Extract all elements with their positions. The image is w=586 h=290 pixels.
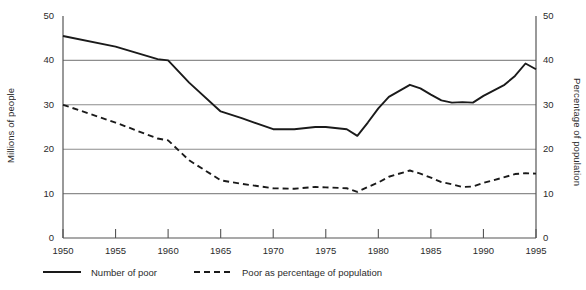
- solid-line-icon: [42, 267, 82, 277]
- right-y-tick-label: 40: [543, 54, 569, 65]
- x-tick-label: 1950: [46, 245, 80, 256]
- right-y-tick-label: 0: [543, 232, 569, 243]
- right-y-tick-label: 30: [543, 99, 569, 110]
- left-y-tick-label: 20: [28, 143, 54, 154]
- x-tick-label: 1990: [466, 245, 500, 256]
- poverty-line-chart: Millions of people Percentage of populat…: [0, 0, 586, 290]
- x-tick-label: 1955: [99, 245, 133, 256]
- left-y-tick-label: 50: [28, 10, 54, 21]
- left-axis-title: Millions of people: [2, 50, 18, 200]
- dashed-line-icon: [193, 267, 233, 277]
- x-axis-tick-marks: [63, 229, 536, 238]
- data-series-lines: [63, 36, 536, 192]
- left-y-tick-label: 10: [28, 188, 54, 199]
- x-tick-label: 1980: [361, 245, 395, 256]
- x-tick-label: 1970: [256, 245, 290, 256]
- legend-item-2[interactable]: Poor as percentage of population: [193, 267, 382, 278]
- x-tick-label: 1975: [309, 245, 343, 256]
- right-y-tick-label: 50: [543, 10, 569, 21]
- x-tick-label: 1985: [414, 245, 448, 256]
- axis-lines: [63, 16, 536, 238]
- x-tick-label: 1960: [151, 245, 185, 256]
- right-y-tick-label: 20: [543, 143, 569, 154]
- legend-item-label: Number of poor: [91, 267, 157, 278]
- chart-legend: Number of poorPoor as percentage of popu…: [0, 262, 586, 282]
- right-y-tick-label: 10: [543, 188, 569, 199]
- x-tick-label: 1965: [204, 245, 238, 256]
- x-tick-label: 1995: [519, 245, 553, 256]
- series-line-2: [63, 105, 536, 192]
- legend-item-1[interactable]: Number of poor: [42, 267, 157, 278]
- left-y-tick-label: 30: [28, 99, 54, 110]
- legend-item-label: Poor as percentage of population: [242, 267, 382, 278]
- left-y-tick-label: 0: [28, 232, 54, 243]
- series-line-1: [63, 36, 536, 136]
- left-y-tick-label: 40: [28, 54, 54, 65]
- gridlines: [63, 60, 536, 193]
- right-axis-title: Percentage of population: [569, 50, 585, 215]
